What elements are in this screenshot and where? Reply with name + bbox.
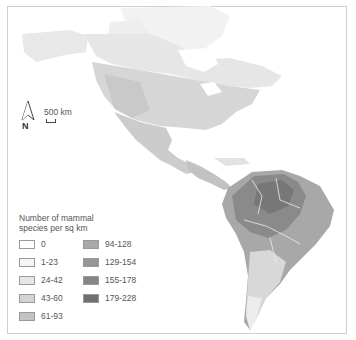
legend-item: 24-42 bbox=[19, 275, 63, 285]
legend-item: 0 bbox=[19, 239, 46, 249]
legend-swatch bbox=[19, 240, 35, 249]
north-label: N bbox=[22, 121, 29, 131]
legend-swatch bbox=[19, 258, 35, 267]
legend-swatch bbox=[19, 276, 35, 285]
region-caribbean bbox=[214, 158, 250, 166]
choropleth-map bbox=[0, 0, 356, 340]
legend-swatch bbox=[83, 276, 99, 285]
region-alaska bbox=[22, 30, 88, 62]
legend-swatch bbox=[19, 294, 35, 303]
legend-label: 24-42 bbox=[41, 275, 63, 285]
legend-label: 0 bbox=[41, 239, 46, 249]
legend-swatch bbox=[83, 294, 99, 303]
legend-label: 179-228 bbox=[105, 293, 136, 303]
legend-item: 179-228 bbox=[83, 293, 136, 303]
legend-item: 43-60 bbox=[19, 293, 63, 303]
legend-label: 61-93 bbox=[41, 311, 63, 321]
legend-item: 94-128 bbox=[83, 239, 131, 249]
scale-label: 500 km bbox=[44, 107, 72, 117]
legend: Number of mammal species per sq km 0 1-2… bbox=[19, 213, 119, 233]
legend-swatch bbox=[83, 240, 99, 249]
legend-label: 1-23 bbox=[41, 257, 58, 267]
legend-item: 129-154 bbox=[83, 257, 136, 267]
legend-swatch bbox=[19, 312, 35, 321]
legend-label: 155-178 bbox=[105, 275, 136, 285]
legend-item: 155-178 bbox=[83, 275, 136, 285]
legend-item: 61-93 bbox=[19, 311, 63, 321]
legend-label: 129-154 bbox=[105, 257, 136, 267]
legend-swatch bbox=[83, 258, 99, 267]
legend-label: 43-60 bbox=[41, 293, 63, 303]
legend-item: 1-23 bbox=[19, 257, 58, 267]
region-gulf-of-mexico bbox=[178, 132, 210, 152]
scale-bar bbox=[46, 119, 56, 123]
legend-label: 94-128 bbox=[105, 239, 131, 249]
legend-title: Number of mammal species per sq km bbox=[19, 213, 119, 233]
